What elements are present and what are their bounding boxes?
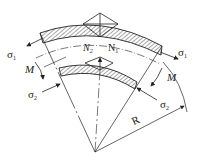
sigma2-right-arrow (137, 88, 157, 100)
sigma1-left-label: σ1 (7, 49, 16, 61)
moment-right-arrow (151, 68, 162, 86)
center-radial-line (95, 70, 100, 152)
moment-right-label: M (167, 72, 176, 83)
sigma1-right-arrow (160, 52, 178, 59)
right-radial-line (95, 46, 162, 152)
sigma1-right-label: σ1 (178, 47, 187, 59)
n1-label: N1 (108, 43, 118, 54)
radius-dimension (95, 106, 184, 152)
n2-label: N2 (83, 43, 93, 54)
outer-fiber-band (40, 25, 162, 55)
sigma2-left-arrow (42, 84, 60, 92)
neutral-axis-arc (36, 45, 160, 64)
moment-left-arrow (35, 62, 43, 79)
sigma2-left-label: σ2 (28, 89, 37, 101)
curved-beam-diagram: σ1 σ1 σ2 σ2 M M N2 N1 R (0, 0, 197, 162)
sigma1-left-arrow (27, 38, 43, 46)
moment-left-label: M (25, 64, 34, 75)
sigma2-right-label: σ2 (160, 99, 169, 111)
